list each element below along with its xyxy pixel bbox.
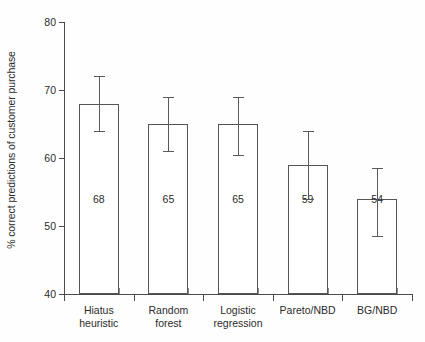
- error-bar-cap-upper: [303, 131, 314, 132]
- x-tick-mark: [342, 295, 343, 301]
- y-axis-line: [64, 22, 65, 294]
- x-tick-mark: [412, 295, 413, 301]
- x-category-label: Hiatusheuristic: [64, 304, 134, 330]
- error-bar-line: [99, 76, 100, 130]
- error-bar-cap-upper: [372, 168, 383, 169]
- error-bar-cap-lower: [303, 199, 314, 200]
- bar-value-label: 65: [149, 193, 187, 205]
- y-tick-mark: [59, 226, 64, 227]
- y-axis-title: % correct predictions of customer purcha…: [0, 0, 22, 300]
- error-bar-cap-lower: [372, 236, 383, 237]
- plot-area: 4050607080 6865655954 HiatusheuristicRan…: [64, 22, 412, 294]
- x-tick-mark: [203, 295, 204, 301]
- x-category-label-line: Random: [134, 304, 204, 317]
- error-bar-line: [377, 168, 378, 236]
- error-bar-line: [238, 97, 239, 155]
- y-tick-mark: [59, 158, 64, 159]
- y-tick-label: 40: [44, 288, 56, 300]
- x-category-label: Pareto/NBD: [273, 304, 343, 317]
- x-category-label: BG/NBD: [342, 304, 412, 317]
- x-category-label-line: regression: [203, 317, 273, 330]
- x-category-label-line: forest: [134, 317, 204, 330]
- x-tick-mark: [134, 295, 135, 301]
- y-axis-title-text: % correct predictions of customer purcha…: [5, 51, 17, 249]
- bar-value-label: 68: [80, 193, 118, 205]
- y-tick-mark: [59, 22, 64, 23]
- x-category-label-line: Pareto/NBD: [273, 304, 343, 317]
- x-axis-bar-edge-mark: [397, 288, 398, 294]
- x-category-label-line: BG/NBD: [342, 304, 412, 317]
- x-tick-mark: [273, 295, 274, 301]
- y-tick-label: 70: [44, 84, 56, 96]
- y-tick-label: 50: [44, 220, 56, 232]
- error-bar-line: [308, 131, 309, 199]
- x-axis-bar-edge-mark: [119, 288, 120, 294]
- x-axis-line: [64, 294, 413, 295]
- bar-value-label: 65: [219, 193, 257, 205]
- x-category-label: Logisticregression: [203, 304, 273, 330]
- bar: 68: [79, 104, 119, 294]
- error-bar-cap-upper: [233, 97, 244, 98]
- x-tick-mark: [64, 295, 65, 301]
- error-bar-cap-lower: [233, 155, 244, 156]
- y-tick-label: 60: [44, 152, 56, 164]
- x-axis-bar-edge-mark: [188, 288, 189, 294]
- bar-chart-figure: % correct predictions of customer purcha…: [0, 0, 425, 342]
- x-category-label-line: Logistic: [203, 304, 273, 317]
- x-axis-bar-edge-mark: [258, 288, 259, 294]
- y-tick-label: 80: [44, 16, 56, 28]
- error-bar-cap-upper: [163, 97, 174, 98]
- y-tick-mark: [59, 90, 64, 91]
- x-category-label: Randomforest: [134, 304, 204, 330]
- error-bar-line: [168, 97, 169, 151]
- x-axis-bar-edge-mark: [328, 288, 329, 294]
- error-bar-cap-upper: [94, 76, 105, 77]
- error-bar-cap-lower: [94, 131, 105, 132]
- error-bar-cap-lower: [163, 151, 174, 152]
- x-category-label-line: heuristic: [64, 317, 134, 330]
- x-category-label-line: Hiatus: [64, 304, 134, 317]
